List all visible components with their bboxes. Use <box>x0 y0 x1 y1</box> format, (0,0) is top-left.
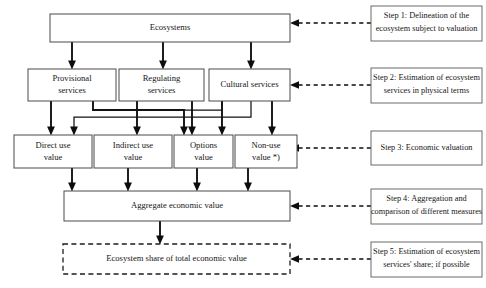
flowchart-canvas: Ecosystems Provisional services Regulati… <box>0 0 486 288</box>
step-box-5: Step 5: Estimation of ecosystem services… <box>371 242 482 277</box>
connector-ecosystems-to-regulating <box>159 42 167 70</box>
connector-options-to-aggregate <box>193 168 201 192</box>
connector-ecosystems-to-cultural <box>247 42 255 70</box>
node-provisional-services-label-line2: services <box>58 85 86 95</box>
step-box-3: Step 3: Economic valuation <box>371 131 482 165</box>
step-box-3-line1: Step 3: Economic valuation <box>381 143 474 152</box>
connector-cultural-down <box>218 101 226 136</box>
connector-indirect-to-aggregate <box>124 168 132 192</box>
dashed-link-step-3 <box>290 144 371 152</box>
dashed-link-step-1 <box>290 19 371 27</box>
node-provisional-services: Provisional services <box>28 69 116 101</box>
node-direct-use-value: Direct use value <box>14 135 92 168</box>
node-non-use-value: Non-use value *) <box>235 135 297 168</box>
ecosystem-valuation-diagram: Ecosystems Provisional services Regulati… <box>0 0 486 288</box>
dashed-link-step-4 <box>290 202 371 210</box>
connector-provisional-to-options <box>93 101 188 136</box>
node-non-use-value-label-line2: value *) <box>252 152 280 162</box>
node-ecosystem-share-label: Ecosystem share of total economic value <box>106 253 247 263</box>
step-box-5-line2: services' share; if possible <box>383 260 470 269</box>
node-indirect-use-value-label-line1: Indirect use <box>113 140 154 150</box>
step-box-5-line1: Step 5: Estimation of ecosystem <box>373 247 480 256</box>
node-direct-use-value-label-line2: value <box>44 152 63 162</box>
connector-cultural-to-direct <box>94 101 223 110</box>
connector-regulating-to-options <box>188 101 196 136</box>
node-aggregate-economic-value-label: Aggregate economic value <box>131 200 223 210</box>
step-box-4: Step 4: Aggregation and comparison of di… <box>371 189 482 224</box>
connector-direct-to-aggregate <box>68 168 76 192</box>
node-indirect-use-value: Indirect use value <box>94 135 172 168</box>
node-non-use-value-label-line1: Non-use <box>251 140 280 150</box>
connector-cultural-to-nonuse <box>268 101 276 136</box>
node-cultural-services: Cultural services <box>209 69 290 101</box>
step-box-1-line1: Step 1: Delineation of the <box>384 11 470 20</box>
node-aggregate-economic-value: Aggregate economic value <box>64 191 290 221</box>
step-box-1-line2: ecosystem subject to valuation <box>376 24 478 33</box>
node-provisional-services-label-line1: Provisional <box>52 73 92 83</box>
node-regulating-services-label-line2: services <box>148 85 176 95</box>
node-regulating-services: Regulating services <box>119 69 204 101</box>
node-ecosystem-share: Ecosystem share of total economic value <box>63 244 290 274</box>
connector-ecosystems-to-provisional <box>68 42 76 70</box>
step-box-1: Step 1: Delineation of the ecosystem sub… <box>371 6 482 41</box>
node-cultural-services-label: Cultural services <box>221 79 280 89</box>
node-ecosystems: Ecosystems <box>50 14 290 42</box>
node-options-value-label-line1: Options <box>190 140 218 150</box>
step-box-2-line1: Step 2: Estimation of ecosystem <box>373 73 480 82</box>
dashed-link-step-5 <box>290 255 371 263</box>
connector-provisional-to-direct <box>47 101 55 136</box>
dashed-link-step-2 <box>290 81 371 89</box>
step-box-4-line1: Step 4: Aggregation and <box>386 194 467 203</box>
node-regulating-services-label-line1: Regulating <box>143 73 181 83</box>
connector-aggregate-to-share <box>156 221 164 245</box>
node-indirect-use-value-label-line2: value <box>124 152 143 162</box>
connector-nonuse-to-aggregate <box>244 168 252 192</box>
node-options-value: Options value <box>174 135 233 168</box>
step-box-4-line2: comparison of different measures <box>371 207 482 216</box>
step-box-2-line2: services in physical terms <box>384 86 469 95</box>
node-direct-use-value-label-line1: Direct use <box>35 140 70 150</box>
connector-regulating-to-indirect <box>133 101 141 136</box>
step-box-2: Step 2: Estimation of ecosystem services… <box>371 68 482 103</box>
node-ecosystems-label: Ecosystems <box>150 22 191 32</box>
node-options-value-label-line2: value <box>194 152 213 162</box>
